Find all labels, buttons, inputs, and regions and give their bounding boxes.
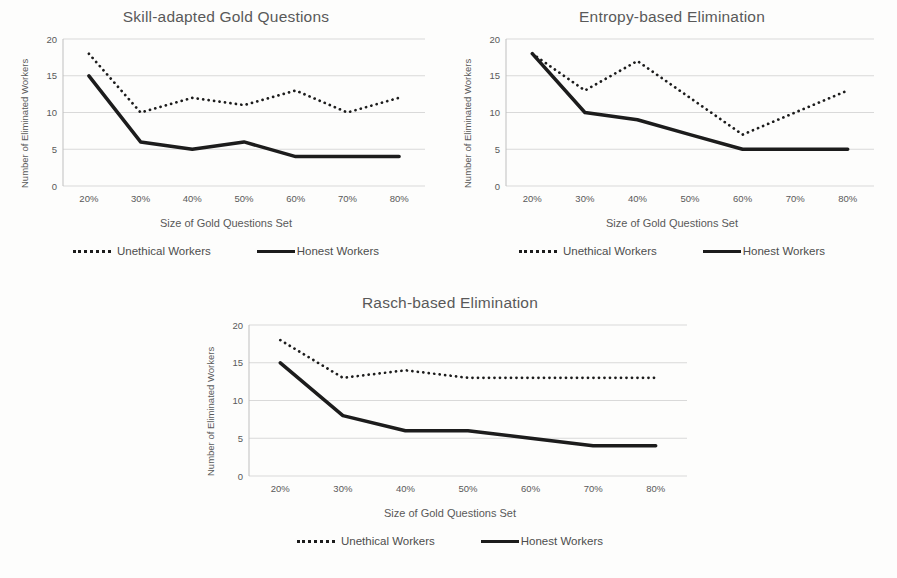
x-axis-label: Size of Gold Questions Set [606, 217, 738, 229]
svg-text:70%: 70% [338, 193, 358, 204]
y-axis-label: Number of Eliminated Workers [17, 30, 33, 216]
legend-label: Honest Workers [297, 245, 379, 257]
chart-rasch-based-elimination: Rasch-based Elimination Number of Elimin… [192, 294, 708, 547]
legend-label: Honest Workers [743, 245, 825, 257]
dotted-line-sample-icon [519, 250, 557, 253]
legend: Unethical Workers Honest Workers [297, 535, 603, 547]
legend: Unethical Workers Honest Workers [73, 245, 379, 257]
legend-item-honest-workers: Honest Workers [257, 245, 379, 257]
svg-text:15: 15 [232, 357, 243, 368]
y-axis-label: Number of Eliminated Workers [460, 30, 476, 216]
svg-text:10: 10 [489, 107, 500, 118]
svg-text:20: 20 [46, 34, 57, 45]
legend-item-unethical-workers: Unethical Workers [519, 245, 657, 257]
svg-text:50%: 50% [680, 193, 700, 204]
svg-text:20%: 20% [523, 193, 543, 204]
chart-title: Entropy-based Elimination [579, 8, 765, 26]
legend-item-unethical-workers: Unethical Workers [73, 245, 211, 257]
x-axis-label: Size of Gold Questions Set [384, 507, 516, 519]
chart-skill-adapted-gold-questions: Skill-adapted Gold Questions Number of E… [10, 8, 442, 257]
legend-item-honest-workers: Honest Workers [703, 245, 825, 257]
chart-entropy-based-elimination: Entropy-based Elimination Number of Elim… [452, 8, 892, 257]
svg-text:0: 0 [238, 471, 243, 482]
chart-plot-area: Number of Eliminated Workers 0510152020%… [203, 316, 697, 506]
svg-text:20%: 20% [79, 193, 99, 204]
svg-text:80%: 80% [838, 193, 858, 204]
svg-text:20: 20 [489, 34, 500, 45]
x-axis-label: Size of Gold Questions Set [160, 217, 292, 229]
svg-text:20%: 20% [271, 483, 291, 494]
svg-text:60%: 60% [521, 483, 541, 494]
svg-text:50%: 50% [458, 483, 478, 494]
legend-label: Unethical Workers [563, 245, 657, 257]
line-plot-svg: 0510152020%30%40%50%60%70%80% [33, 30, 435, 216]
svg-text:0: 0 [495, 181, 500, 192]
svg-text:15: 15 [489, 70, 500, 81]
svg-text:40%: 40% [396, 483, 416, 494]
svg-text:20: 20 [232, 320, 243, 331]
dotted-line-sample-icon [73, 250, 111, 253]
svg-text:30%: 30% [333, 483, 353, 494]
legend: Unethical Workers Honest Workers [519, 245, 825, 257]
svg-text:40%: 40% [628, 193, 648, 204]
y-axis-label: Number of Eliminated Workers [203, 316, 219, 506]
chart-title: Skill-adapted Gold Questions [123, 8, 329, 26]
svg-text:10: 10 [232, 395, 243, 406]
solid-line-sample-icon [257, 250, 295, 253]
line-plot-svg: 0510152020%30%40%50%60%70%80% [219, 316, 697, 506]
svg-text:0: 0 [52, 181, 57, 192]
svg-text:5: 5 [52, 144, 57, 155]
line-plot-svg: 0510152020%30%40%50%60%70%80% [476, 30, 884, 216]
svg-text:80%: 80% [390, 193, 410, 204]
svg-text:60%: 60% [286, 193, 306, 204]
legend-item-unethical-workers: Unethical Workers [297, 535, 435, 547]
legend-label: Unethical Workers [341, 535, 435, 547]
svg-text:80%: 80% [646, 483, 666, 494]
svg-text:15: 15 [46, 70, 57, 81]
svg-text:60%: 60% [733, 193, 753, 204]
svg-text:30%: 30% [575, 193, 595, 204]
dotted-line-sample-icon [297, 540, 335, 543]
legend-label: Unethical Workers [117, 245, 211, 257]
svg-text:40%: 40% [183, 193, 203, 204]
svg-text:10: 10 [46, 107, 57, 118]
solid-line-sample-icon [481, 540, 519, 543]
svg-text:5: 5 [238, 433, 243, 444]
chart-plot-area: Number of Eliminated Workers 0510152020%… [17, 30, 435, 216]
legend-label: Honest Workers [521, 535, 603, 547]
svg-text:70%: 70% [584, 483, 604, 494]
solid-line-sample-icon [703, 250, 741, 253]
chart-title: Rasch-based Elimination [362, 294, 538, 312]
svg-text:30%: 30% [131, 193, 151, 204]
legend-item-honest-workers: Honest Workers [481, 535, 603, 547]
svg-text:5: 5 [495, 144, 500, 155]
figure-three-line-charts: Skill-adapted Gold Questions Number of E… [0, 0, 897, 578]
svg-text:50%: 50% [234, 193, 254, 204]
chart-plot-area: Number of Eliminated Workers 0510152020%… [460, 30, 884, 216]
svg-text:70%: 70% [786, 193, 806, 204]
